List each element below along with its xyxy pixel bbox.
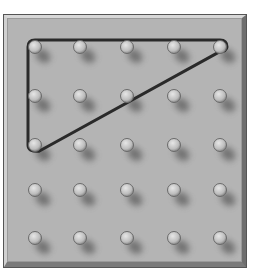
peg-r2-c3[interactable] [168,139,181,152]
peg-r4-c2[interactable] [121,232,134,245]
peg-r3-c3[interactable] [168,184,181,197]
peg-r1-c1[interactable] [74,90,87,103]
peg-r3-c4[interactable] [214,184,227,197]
peg-r2-c2[interactable] [121,139,134,152]
peg-r1-c4[interactable] [214,90,227,103]
peg-r2-c4[interactable] [214,139,227,152]
peg-r4-c0[interactable] [29,232,42,245]
peg-r4-c4[interactable] [214,232,227,245]
pegs-layer [0,0,254,274]
peg-r1-c2[interactable] [121,90,134,103]
peg-r0-c4[interactable] [214,41,227,54]
peg-r1-c0[interactable] [29,90,42,103]
peg-r4-c3[interactable] [168,232,181,245]
peg-r0-c1[interactable] [74,41,87,54]
peg-r0-c2[interactable] [121,41,134,54]
peg-r3-c1[interactable] [74,184,87,197]
peg-r1-c3[interactable] [168,90,181,103]
peg-r2-c1[interactable] [74,139,87,152]
peg-shadows [33,46,238,256]
peg-r2-c0[interactable] [29,139,42,152]
pegs [29,41,227,245]
peg-r3-c0[interactable] [29,184,42,197]
peg-r3-c2[interactable] [121,184,134,197]
peg-r0-c3[interactable] [168,41,181,54]
peg-r0-c0[interactable] [29,41,42,54]
peg-r4-c1[interactable] [74,232,87,245]
